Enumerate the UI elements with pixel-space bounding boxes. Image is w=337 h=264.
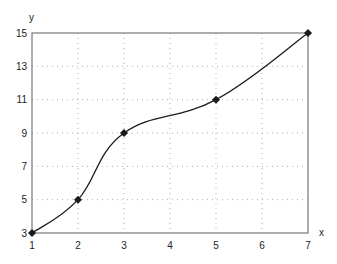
y-tick-label: 7 [21,161,27,172]
line-chart: 1234567 3579111315 x y [0,0,337,264]
y-tick-label: 3 [21,228,27,239]
grid-lines [32,33,308,233]
x-tick-label: 6 [259,240,265,251]
x-tick-label: 7 [305,240,311,251]
y-tick-label: 5 [21,194,27,205]
x-tick-label: 3 [121,240,127,251]
y-tick-label: 9 [21,128,27,139]
y-tick-label: 15 [16,28,28,39]
y-axis-ticks: 3579111315 [16,28,28,239]
x-axis-label: x [319,227,324,238]
diamond-marker [212,96,220,104]
x-tick-label: 5 [213,240,219,251]
y-tick-label: 13 [16,61,28,72]
diamond-marker [28,229,36,237]
y-tick-label: 11 [17,94,28,105]
y-axis-label: y [29,12,34,23]
x-tick-label: 2 [75,240,81,251]
x-tick-label: 1 [29,240,35,251]
x-axis-ticks: 1234567 [29,240,311,251]
x-tick-label: 4 [167,240,173,251]
